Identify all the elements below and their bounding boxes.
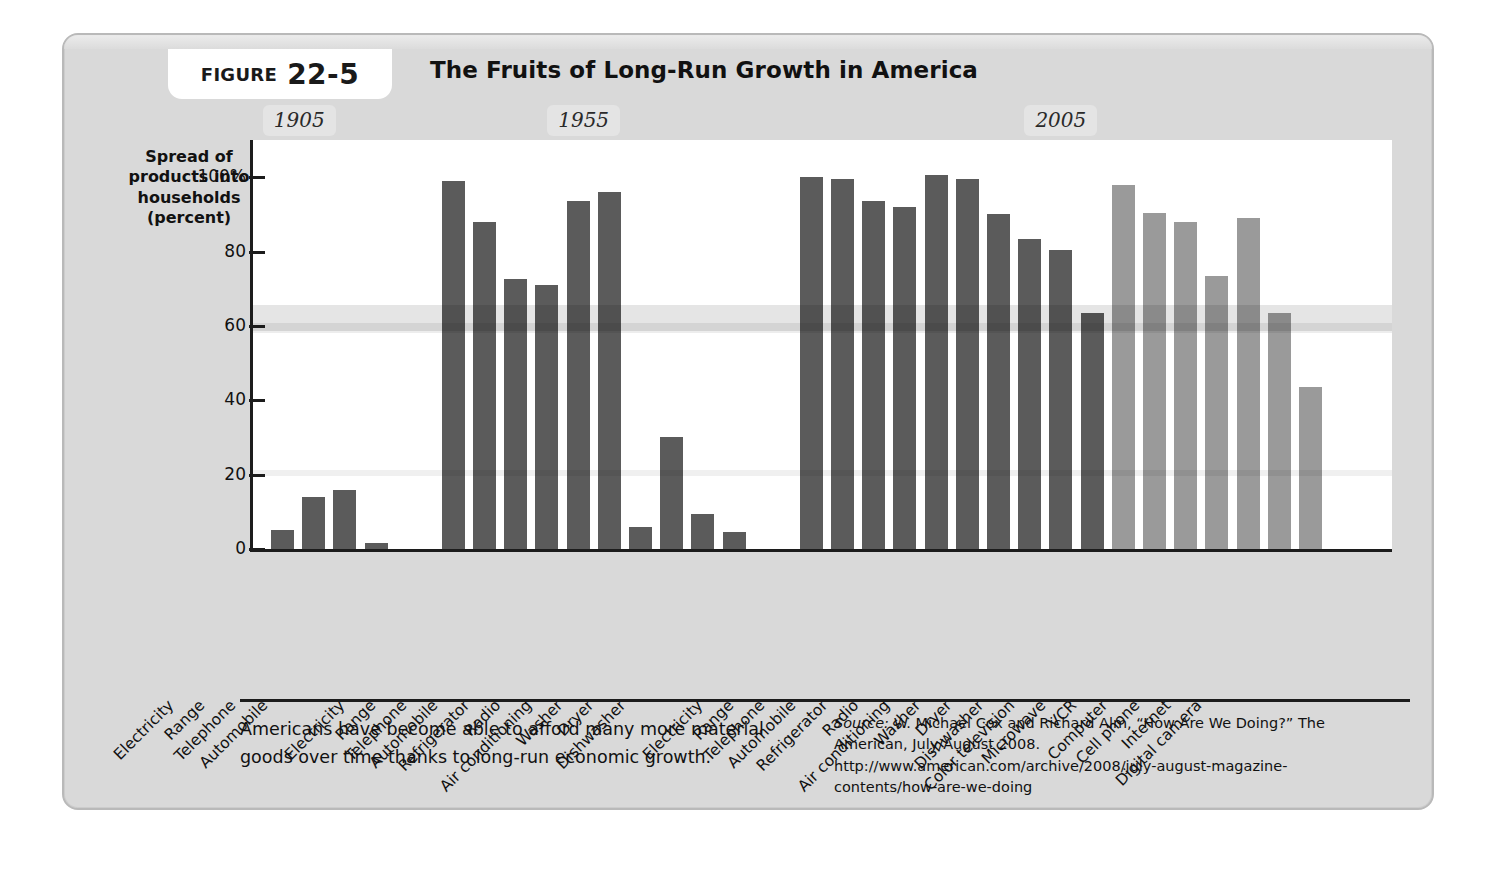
y-axis-caption: Spread ofproducts intohouseholds(percent… — [124, 147, 254, 229]
x-axis-category-labels: ElectricityRangeTelephoneAutomobileElect… — [250, 555, 1410, 715]
y-tick-label-20: 20 — [156, 464, 246, 484]
bar-1955-electricity — [442, 181, 465, 549]
bar-1905-telephone — [333, 490, 356, 549]
bar-1955-washer — [660, 437, 683, 549]
y-axis-caption-line-1: Spread of — [124, 147, 254, 167]
y-tick-label-0: 0 — [156, 538, 246, 558]
figure-number: 22-5 — [287, 58, 359, 91]
bar-1955-refrigerator — [567, 201, 590, 549]
source-line-2: American, July/August 2008. — [834, 734, 1354, 755]
bar-2005-air-conditioning — [987, 214, 1010, 549]
bar-1955-automobile — [535, 285, 558, 549]
figure-number-tab: FIGURE 22-5 — [168, 49, 392, 99]
y-tick-label-40: 40 — [156, 389, 246, 409]
y-tick-20 — [249, 474, 265, 477]
caption-divider — [240, 699, 1410, 702]
bar-1955-air-conditioning — [629, 527, 652, 549]
bar-2005-telephone — [862, 201, 885, 549]
figure-caption: Americans have become able to afford man… — [240, 715, 780, 772]
bars-layer — [253, 140, 1392, 549]
y-tick-40 — [249, 399, 265, 402]
y-tick-label-100: 100% — [156, 166, 246, 186]
era-badge-1905: 1905 — [263, 105, 336, 136]
figure-label-word: FIGURE — [201, 64, 277, 85]
bar-1955-range — [473, 222, 496, 549]
bar-2005-refrigerator — [925, 175, 948, 549]
era-badge-1955: 1955 — [547, 105, 620, 136]
y-axis-caption-line-4: (percent) — [124, 208, 254, 228]
bar-1905-range — [302, 497, 325, 549]
bar-2005-radio — [956, 179, 979, 549]
x-axis-line — [250, 549, 1392, 552]
bar-2005-automobile — [893, 207, 916, 549]
bar-2005-vcr — [1174, 222, 1197, 549]
y-tick-80 — [249, 251, 265, 254]
y-axis-caption-line-3: households — [124, 188, 254, 208]
bar-2005-dryer — [1049, 250, 1072, 549]
source-line-1: Source: W. Michael Cox and Richard Alm, … — [834, 713, 1354, 734]
figure-title: The Fruits of Long-Run Growth in America — [430, 57, 978, 83]
bar-1955-radio — [598, 192, 621, 549]
bar-2005-microwave — [1143, 213, 1166, 549]
figure-source: Source: W. Michael Cox and Richard Alm, … — [834, 713, 1354, 799]
chart-plot-wrap: 020406080100% — [250, 140, 1392, 552]
bar-2005-electricity — [800, 177, 823, 549]
panel-top-sheen — [64, 35, 1432, 49]
bar-1955-dishwasher — [723, 532, 746, 549]
bar-2005-computer — [1205, 276, 1228, 549]
bar-1955-telephone — [504, 279, 527, 549]
era-badge-2005: 2005 — [1024, 105, 1097, 136]
source-text-1: W. Michael Cox and Richard Alm, “How Are… — [894, 715, 1325, 731]
y-tick-60 — [249, 325, 265, 328]
bar-2005-dishwasher — [1081, 313, 1104, 549]
bar-2005-internet — [1268, 313, 1291, 549]
bar-2005-cell-phone — [1237, 218, 1260, 549]
y-tick-label-80: 80 — [156, 241, 246, 261]
bar-1905-electricity — [271, 530, 294, 549]
bar-2005-washer — [1018, 239, 1041, 549]
bar-2005-color-television — [1112, 185, 1135, 549]
source-prefix: Source: — [834, 715, 889, 731]
y-tick-label-60: 60 — [156, 315, 246, 335]
figure-panel: FIGURE 22-5 The Fruits of Long-Run Growt… — [62, 33, 1434, 810]
source-line-4: contents/how-are-we-doing — [834, 777, 1354, 798]
bar-1955-dryer — [691, 514, 714, 549]
y-axis-line — [250, 140, 253, 552]
source-line-3: http://www.american.com/archive/2008/jul… — [834, 756, 1354, 777]
y-tick-0 — [249, 548, 265, 551]
figure-page: FIGURE 22-5 The Fruits of Long-Run Growt… — [0, 0, 1489, 882]
bar-2005-range — [831, 179, 854, 549]
bar-2005-digital-camera — [1299, 387, 1322, 549]
chart-plot-area: 020406080100% — [250, 140, 1392, 552]
y-tick-100 — [249, 176, 265, 179]
